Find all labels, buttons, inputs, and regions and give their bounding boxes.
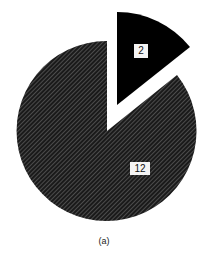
figure-caption: (a) xyxy=(0,236,208,246)
pie-slice-large xyxy=(17,41,197,221)
data-label-large: 12 xyxy=(130,162,150,175)
data-label-small: 2 xyxy=(134,44,148,58)
pie-chart xyxy=(0,0,208,259)
